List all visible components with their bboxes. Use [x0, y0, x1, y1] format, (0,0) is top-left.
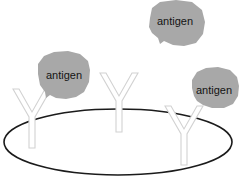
antigen-left-group: antigen	[38, 51, 90, 99]
antigen-right-group: antigen	[192, 67, 239, 108]
antigen-top-group: antigen	[149, 0, 205, 46]
antigen-top-label: antigen	[157, 15, 193, 27]
antigen-right-label: antigen	[196, 84, 232, 96]
antigen-antibody-diagram: antigen antigen antigen	[0, 0, 244, 189]
diagram-canvas: antigen antigen antigen	[0, 0, 244, 189]
antibody-left	[13, 89, 51, 148]
antigen-left-label: antigen	[46, 69, 82, 81]
antibody-middle	[100, 73, 138, 132]
